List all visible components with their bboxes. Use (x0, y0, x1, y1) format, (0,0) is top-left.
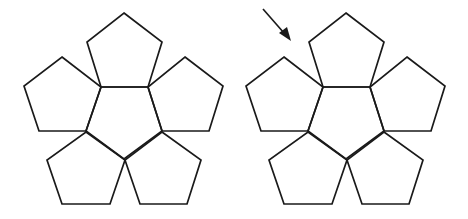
pentagon-lower-right (125, 132, 201, 204)
pentagon-lower-left (269, 132, 347, 204)
pentagon-upper-right (370, 57, 445, 131)
pentagon-upper-left (246, 57, 323, 131)
pentagon-nets-diagram (0, 0, 468, 219)
pentagon-net-left (24, 13, 223, 204)
pentagon-top (87, 13, 162, 87)
diagram-stage (0, 0, 468, 219)
pentagon-lower-left (47, 132, 125, 204)
pentagon-net-right (246, 13, 445, 204)
pentagon-lower-right (347, 132, 423, 204)
pentagon-upper-left (24, 57, 101, 131)
pentagon-top (309, 13, 384, 87)
arrow-shaft (263, 9, 284, 33)
arrow-icon (263, 9, 291, 41)
pentagon-upper-right (148, 57, 223, 131)
